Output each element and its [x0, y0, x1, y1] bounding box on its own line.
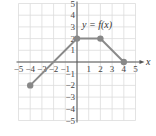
y-tick-label: −3	[65, 92, 75, 102]
y-tick-label: 3	[71, 22, 76, 32]
x-tick-label: −4	[25, 64, 35, 74]
y-tick-label: 4	[71, 10, 76, 20]
data-point-marker	[97, 35, 103, 41]
x-tick-label: 2	[98, 64, 103, 74]
data-point-marker	[121, 59, 127, 65]
data-point-marker	[74, 35, 80, 41]
y-tick-label: −2	[65, 80, 75, 90]
x-axis-arrow-icon	[140, 60, 145, 64]
y-tick-label: −4	[65, 104, 75, 114]
x-tick-label: 3	[110, 64, 115, 74]
y-tick-label: −5	[65, 116, 75, 126]
function-graph: −5−4−3−2−11234554321−1−2−3−4−5 x y = f(x…	[0, 0, 156, 136]
tick-labels: −5−4−3−2−11234554321−1−2−3−4−5	[14, 0, 139, 126]
x-tick-label: −5	[14, 64, 24, 74]
x-tick-label: 4	[122, 64, 127, 74]
x-axis-label: x	[145, 56, 151, 67]
y-tick-label: −1	[65, 69, 75, 79]
x-tick-label: 1	[86, 64, 91, 74]
data-point-marker	[27, 82, 33, 88]
y-tick-label: 5	[71, 0, 76, 9]
y-tick-label: 1	[71, 45, 76, 55]
function-label: y = f(x)	[81, 19, 113, 31]
x-tick-label: 5	[133, 64, 138, 74]
